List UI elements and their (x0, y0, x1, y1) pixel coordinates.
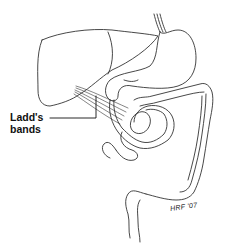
stomach (106, 30, 197, 101)
small-intestine (102, 100, 174, 160)
esophagus (154, 14, 166, 32)
ladds-label-line1: Ladd's (10, 111, 43, 123)
ladds-label-line2: bands (10, 123, 41, 135)
colon (126, 83, 213, 242)
ladds-leader-line (50, 96, 96, 118)
